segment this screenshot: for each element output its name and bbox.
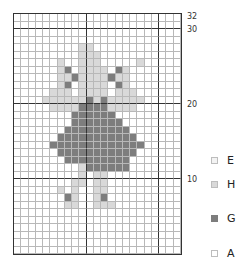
chart-cell	[137, 202, 144, 210]
chart-cell	[108, 52, 115, 60]
chart-cell	[166, 14, 173, 22]
swatch-e-icon	[211, 157, 218, 164]
chart-cell	[159, 14, 166, 22]
chart-cell	[130, 44, 137, 52]
chart-cell	[174, 14, 181, 22]
chart-cell	[43, 157, 50, 165]
chart-cell	[108, 59, 115, 67]
chart-cell	[58, 179, 65, 187]
chart-cell	[50, 217, 57, 225]
chart-cell	[116, 209, 123, 217]
chart-cell	[166, 187, 173, 195]
chart-cell	[152, 247, 159, 255]
chart-cell	[14, 29, 21, 37]
chart-cell	[108, 172, 115, 180]
chart-cell	[94, 127, 101, 135]
chart-cell	[94, 119, 101, 127]
chart-cell	[87, 112, 94, 120]
chart-cell	[137, 119, 144, 127]
chart-cell	[79, 239, 86, 247]
chart-cell	[116, 239, 123, 247]
chart-cell	[108, 217, 115, 225]
chart-cell	[137, 67, 144, 75]
chart-cell	[87, 157, 94, 165]
chart-cell	[174, 22, 181, 30]
chart-cell	[58, 22, 65, 30]
chart-cell	[137, 74, 144, 82]
chart-cell	[14, 97, 21, 105]
chart-cell	[108, 29, 115, 37]
chart-cell	[87, 119, 94, 127]
chart-cell	[101, 247, 108, 255]
chart-cell	[21, 179, 28, 187]
chart-cell	[21, 67, 28, 75]
chart-cell	[65, 142, 72, 150]
chart-cell	[58, 134, 65, 142]
chart-cell	[130, 142, 137, 150]
chart-cell	[101, 224, 108, 232]
chart-cell	[58, 164, 65, 172]
chart-cell	[36, 239, 43, 247]
chart-cell	[58, 247, 65, 255]
chart-cell	[72, 142, 79, 150]
chart-cell	[145, 14, 152, 22]
chart-cell	[130, 157, 137, 165]
chart-cell	[116, 97, 123, 105]
chart-cell	[94, 134, 101, 142]
chart-cell	[166, 112, 173, 120]
chart-cell	[72, 104, 79, 112]
chart-cell	[108, 202, 115, 210]
chart-cell	[65, 44, 72, 52]
chart-cell	[29, 22, 36, 30]
chart-cell	[130, 82, 137, 90]
chart-cell	[101, 14, 108, 22]
chart-cell	[36, 119, 43, 127]
chart-cell	[50, 59, 57, 67]
chart-cell	[137, 89, 144, 97]
chart-cell	[29, 224, 36, 232]
chart-cell	[123, 179, 130, 187]
chart-cell	[123, 202, 130, 210]
chart-cell	[36, 14, 43, 22]
chart-cell	[72, 194, 79, 202]
legend-label-g: G	[227, 212, 236, 225]
chart-cell	[87, 22, 94, 30]
chart-cell	[166, 194, 173, 202]
chart-cell	[159, 217, 166, 225]
chart-cell	[21, 239, 28, 247]
chart-cell	[108, 14, 115, 22]
chart-cell	[166, 209, 173, 217]
chart-cell	[87, 224, 94, 232]
chart-cell	[87, 239, 94, 247]
chart-cell	[166, 127, 173, 135]
chart-cell	[72, 202, 79, 210]
chart-cell	[72, 179, 79, 187]
chart-cell	[21, 172, 28, 180]
chart-cell	[21, 82, 28, 90]
chart-cell	[130, 67, 137, 75]
chart-cell	[58, 239, 65, 247]
chart-cell	[94, 29, 101, 37]
chart-cell	[72, 97, 79, 105]
chart-cell	[101, 157, 108, 165]
chart-cell	[72, 74, 79, 82]
chart-cell	[108, 127, 115, 135]
chart-cell	[36, 247, 43, 255]
chart-cell	[36, 89, 43, 97]
chart-cell	[87, 149, 94, 157]
chart-cell	[14, 82, 21, 90]
chart-cell	[58, 194, 65, 202]
chart-cell	[58, 172, 65, 180]
chart-cell	[174, 112, 181, 120]
chart-cell	[123, 89, 130, 97]
chart-cell	[108, 89, 115, 97]
chart-cell	[123, 59, 130, 67]
chart-cell	[58, 209, 65, 217]
chart-cell	[159, 52, 166, 60]
chart-cell	[159, 239, 166, 247]
chart-cell	[152, 44, 159, 52]
chart-cell	[50, 127, 57, 135]
legend-item-g: G	[211, 211, 249, 225]
chart-cell	[130, 74, 137, 82]
chart-cell	[58, 52, 65, 60]
